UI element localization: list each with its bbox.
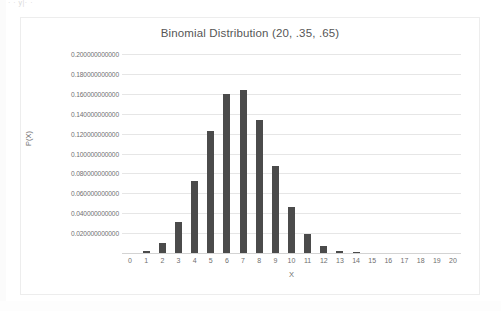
x-axis-tick-label: 12	[316, 257, 332, 264]
x-axis-line	[122, 253, 461, 254]
x-axis-tick-label: 14	[348, 257, 364, 264]
y-axis-tick-label: 0.160000000000	[23, 90, 119, 97]
x-axis-tick-label: 9	[267, 257, 283, 264]
bar[interactable]	[240, 90, 247, 253]
y-axis-tick-label: 0.040000000000	[23, 210, 119, 217]
x-axis-tick-label: 2	[154, 257, 170, 264]
x-axis-tick-label: 8	[251, 257, 267, 264]
x-axis-tick-label: 18	[413, 257, 429, 264]
y-axis-tick-label: 0.140000000000	[23, 110, 119, 117]
x-axis-tick-label: 13	[332, 257, 348, 264]
y-axis-tick-label: 0.080000000000	[23, 170, 119, 177]
x-axis-tick-label: 20	[445, 257, 461, 264]
x-axis-tick-label: 3	[171, 257, 187, 264]
x-axis-tick-label: 4	[187, 257, 203, 264]
y-axis-tick-label: 0.200000000000	[23, 51, 119, 58]
x-axis-tick-label: 15	[364, 257, 380, 264]
chart-title: Binomial Distribution (20, .35, .65)	[21, 27, 479, 39]
x-axis-tick-label: 11	[300, 257, 316, 264]
x-axis-tick-label: 0	[122, 257, 138, 264]
x-axis-tick-label: 17	[397, 257, 413, 264]
bar[interactable]	[175, 222, 182, 253]
bar[interactable]	[256, 120, 263, 253]
y-axis-tick-label: 0.120000000000	[23, 130, 119, 137]
bar[interactable]	[288, 207, 295, 253]
bar[interactable]	[143, 251, 150, 253]
y-axis-tick-labels: 0.0200000000000.0400000000000.0600000000…	[21, 54, 119, 254]
bar[interactable]	[159, 243, 166, 253]
bar[interactable]	[207, 131, 214, 253]
x-axis-tick-label: 10	[284, 257, 300, 264]
x-axis-tick-label: 1	[138, 257, 154, 264]
x-axis-tick-label: 7	[235, 257, 251, 264]
y-axis-tick-label: 0.020000000000	[23, 230, 119, 237]
page-left-edge	[0, 0, 6, 311]
chart-container[interactable]: Binomial Distribution (20, .35, .65) P(X…	[20, 17, 480, 295]
bar[interactable]	[304, 234, 311, 253]
bar[interactable]	[320, 246, 327, 253]
x-axis-title: X	[122, 270, 461, 279]
y-axis-tick-label: 0.100000000000	[23, 150, 119, 157]
bar[interactable]	[223, 94, 230, 253]
page-bottom-edge	[0, 301, 501, 311]
page-top-faint-text: · · y|· ·	[8, 0, 428, 9]
bar[interactable]	[353, 252, 360, 253]
x-axis-tick-label: 6	[219, 257, 235, 264]
x-axis-tick-label: 5	[203, 257, 219, 264]
x-axis-tick-label: 19	[429, 257, 445, 264]
bar[interactable]	[336, 251, 343, 253]
bar[interactable]	[191, 181, 198, 253]
x-axis-tick-label: 16	[380, 257, 396, 264]
y-axis-tick-label: 0.060000000000	[23, 190, 119, 197]
plot-area: 01234567891011121314151617181920 X	[122, 54, 461, 253]
bar[interactable]	[272, 166, 279, 253]
bar-series	[122, 54, 461, 253]
y-axis-tick-label: 0.180000000000	[23, 70, 119, 77]
